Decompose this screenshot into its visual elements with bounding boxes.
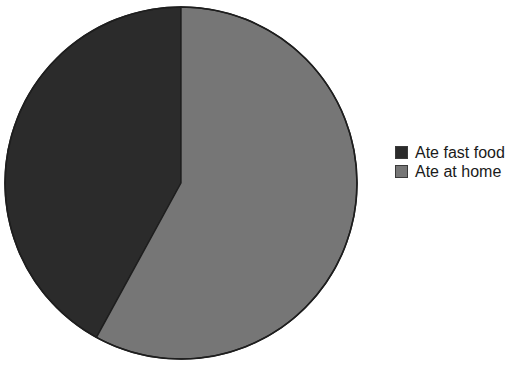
pie-svg xyxy=(0,0,525,366)
legend-item-ate-at-home[interactable]: Ate at home xyxy=(395,162,525,181)
legend-swatch-icon xyxy=(395,146,408,159)
pie-chart: Ate fast food Ate at home xyxy=(0,0,525,366)
pie-slices xyxy=(5,7,357,359)
legend-item-label: Ate fast food xyxy=(415,143,505,162)
legend-swatch-icon xyxy=(395,165,408,178)
legend: Ate fast food Ate at home xyxy=(395,143,525,181)
legend-item-label: Ate at home xyxy=(415,162,501,181)
legend-item-ate-fast-food[interactable]: Ate fast food xyxy=(395,143,525,162)
